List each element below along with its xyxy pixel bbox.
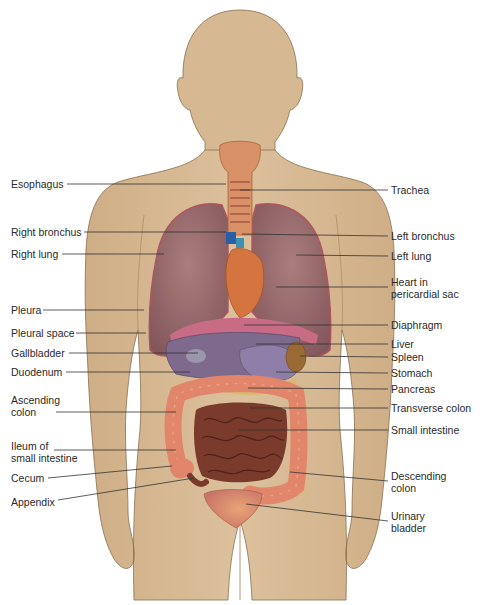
anatomy-diagram: Esophagus Right bronchus Right lung Pleu… [0,0,480,605]
label-liver: Liver [391,338,414,350]
label-trachea: Trachea [391,184,429,196]
label-duodenum: Duodenum [11,366,62,378]
label-pleura: Pleura [11,304,41,316]
label-small-intestine: Small intestine [391,424,459,436]
label-left-bronchus: Left bronchus [391,230,455,242]
label-heart: Heart in pericardial sac [391,276,459,300]
small-intestine-shape [194,403,287,483]
spleen-shape [286,342,306,372]
label-ileum-line1: Ileum of [11,440,78,452]
label-right-bronchus: Right bronchus [11,226,82,238]
label-pleural-space: Pleural space [11,327,75,339]
label-urinary-bladder-line2: bladder [391,522,426,534]
label-gallbladder: Gallbladder [11,347,65,359]
label-descending-colon-line2: colon [391,482,446,494]
label-heart-line2: pericardial sac [391,288,459,300]
label-spleen: Spleen [391,351,424,363]
label-pancreas: Pancreas [391,383,435,395]
label-ileum-line2: small intestine [11,452,78,464]
label-esophagus: Esophagus [11,178,64,190]
label-ascending-colon-line2: colon [11,406,60,418]
label-urinary-bladder: Urinary bladder [391,510,426,534]
label-stomach: Stomach [391,367,432,379]
label-descending-colon: Descending colon [391,470,446,494]
label-diaphragm: Diaphragm [391,319,442,331]
label-right-lung: Right lung [11,248,58,260]
gallbladder-shape [186,349,206,363]
label-appendix: Appendix [11,496,55,508]
label-urinary-bladder-line1: Urinary [391,510,426,522]
label-descending-colon-line1: Descending [391,470,446,482]
label-cecum: Cecum [11,472,44,484]
label-left-lung: Left lung [391,250,431,262]
label-transverse-colon: Transverse colon [391,402,471,414]
label-ascending-colon: Ascending colon [11,394,60,418]
label-ileum: Ileum of small intestine [11,440,78,464]
label-heart-line1: Heart in [391,276,459,288]
label-ascending-colon-line1: Ascending [11,394,60,406]
